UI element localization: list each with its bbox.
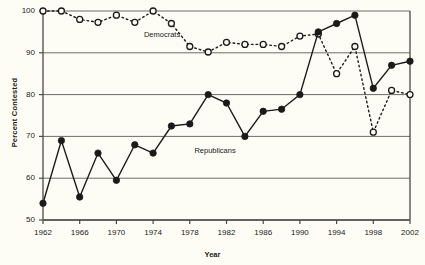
data-point-democrats	[242, 41, 248, 47]
x-axis-label: Year	[0, 250, 425, 259]
data-point-republicans	[132, 142, 138, 148]
data-point-democrats	[40, 8, 46, 14]
data-point-republicans	[370, 85, 376, 91]
x-tick-label: 1994	[317, 228, 357, 237]
data-point-republicans	[242, 133, 248, 139]
data-point-democrats	[389, 87, 395, 93]
y-tick-label: 90	[9, 48, 35, 57]
data-point-democrats	[334, 71, 340, 77]
data-point-democrats	[77, 16, 83, 22]
data-point-democrats	[297, 33, 303, 39]
data-point-democrats	[205, 49, 211, 55]
chart-plot-area	[0, 0, 425, 265]
data-point-republicans	[333, 20, 339, 26]
x-tick-label: 1982	[207, 228, 247, 237]
data-point-republicans	[388, 62, 394, 68]
data-point-republicans	[352, 12, 358, 18]
data-point-democrats	[279, 44, 285, 50]
x-tick-label: 1978	[170, 228, 210, 237]
data-point-republicans	[297, 91, 303, 97]
data-point-republicans	[407, 58, 413, 64]
data-point-democrats	[150, 8, 156, 14]
data-point-republicans	[40, 200, 46, 206]
data-point-democrats	[224, 39, 230, 45]
y-tick-label: 100	[9, 6, 35, 15]
data-point-republicans	[168, 123, 174, 129]
y-tick-label: 50	[9, 215, 35, 224]
data-point-republicans	[315, 29, 321, 35]
data-point-republicans	[113, 177, 119, 183]
x-tick-label: 1966	[60, 228, 100, 237]
data-point-republicans	[150, 150, 156, 156]
data-point-republicans	[205, 91, 211, 97]
x-tick-label: 1986	[243, 228, 283, 237]
y-axis-label: Percent Contested	[10, 53, 19, 173]
data-point-republicans	[223, 100, 229, 106]
y-tick-label: 70	[9, 131, 35, 140]
data-point-democrats	[168, 21, 174, 27]
data-point-democrats	[95, 19, 101, 25]
data-point-democrats	[370, 129, 376, 135]
data-point-republicans	[58, 137, 64, 143]
y-tick-label: 80	[9, 90, 35, 99]
x-tick-label: 1990	[280, 228, 320, 237]
series-line-democrats	[43, 11, 410, 132]
data-point-democrats	[113, 12, 119, 18]
x-tick-label: 1970	[96, 228, 136, 237]
data-point-republicans	[95, 150, 101, 156]
data-point-republicans	[260, 108, 266, 114]
data-point-democrats	[187, 44, 193, 50]
x-tick-label: 2002	[390, 228, 425, 237]
x-tick-label: 1974	[133, 228, 173, 237]
chart-container: Percent Contested Year 50607080901001962…	[0, 0, 425, 265]
data-point-democrats	[58, 8, 64, 14]
data-point-democrats	[407, 92, 413, 98]
x-tick-label: 1962	[23, 228, 63, 237]
x-tick-label: 1998	[353, 228, 393, 237]
data-point-republicans	[278, 106, 284, 112]
series-label-republicans: Republicans	[194, 146, 235, 155]
series-label-democrats: Democrats	[144, 30, 180, 39]
data-point-democrats	[132, 19, 138, 25]
y-tick-label: 60	[9, 173, 35, 182]
data-point-democrats	[352, 44, 358, 50]
data-point-republicans	[187, 121, 193, 127]
data-point-democrats	[260, 41, 266, 47]
data-point-republicans	[77, 194, 83, 200]
